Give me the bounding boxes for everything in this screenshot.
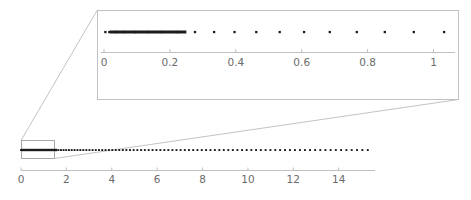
main-data-point bbox=[214, 149, 216, 151]
main-data-point bbox=[105, 149, 107, 151]
main-data-point bbox=[108, 149, 110, 151]
inset-data-points bbox=[104, 31, 445, 34]
inset-axis bbox=[101, 49, 455, 53]
main-data-point bbox=[274, 149, 276, 151]
main-data-point bbox=[57, 149, 59, 151]
main-tick-label: 4 bbox=[108, 173, 115, 185]
inset-dense-bar bbox=[110, 31, 186, 34]
main-data-point bbox=[330, 149, 332, 151]
main-data-point bbox=[356, 149, 358, 151]
main-data-point bbox=[324, 149, 326, 151]
main-data-point bbox=[223, 149, 225, 151]
main-data-point bbox=[140, 149, 142, 151]
main-data-points bbox=[20, 149, 369, 151]
inset-tick-label: 0.8 bbox=[359, 56, 376, 68]
inset-data-point bbox=[213, 31, 215, 33]
main-data-point bbox=[63, 149, 65, 151]
inset-data-point bbox=[413, 31, 415, 33]
main-panel: 02468101214 bbox=[18, 141, 375, 185]
inset-data-point bbox=[233, 31, 235, 33]
main-data-point bbox=[340, 149, 342, 151]
inset-tick-label: 0 bbox=[101, 56, 108, 68]
main-tick-label: 2 bbox=[63, 173, 70, 185]
main-data-point bbox=[241, 149, 243, 151]
main-data-point bbox=[136, 149, 138, 151]
main-data-point bbox=[269, 149, 271, 151]
main-data-point bbox=[101, 149, 103, 151]
main-data-point bbox=[250, 149, 252, 151]
main-data-point bbox=[197, 149, 199, 151]
main-data-point bbox=[144, 149, 146, 151]
main-data-point bbox=[284, 149, 286, 151]
main-data-point bbox=[351, 149, 353, 151]
main-data-point bbox=[74, 149, 76, 151]
main-data-point bbox=[133, 149, 135, 151]
main-tick-label: 6 bbox=[154, 173, 161, 185]
main-data-point bbox=[171, 149, 173, 151]
inset-data-point bbox=[279, 31, 281, 33]
main-tick-label: 0 bbox=[18, 173, 25, 185]
main-data-point bbox=[289, 149, 291, 151]
main-data-point bbox=[92, 149, 94, 151]
main-data-point bbox=[148, 149, 150, 151]
main-data-point bbox=[79, 149, 81, 151]
main-data-point bbox=[65, 149, 67, 151]
main-data-point bbox=[152, 149, 154, 151]
main-data-point bbox=[115, 149, 117, 151]
main-dense-bar bbox=[21, 149, 57, 151]
main-data-point bbox=[167, 149, 169, 151]
inset-tick-label: 1 bbox=[430, 56, 437, 68]
main-data-point bbox=[294, 149, 296, 151]
main-data-point bbox=[227, 149, 229, 151]
zoom-connectors bbox=[21, 11, 459, 159]
main-data-point bbox=[205, 149, 207, 151]
main-data-point bbox=[345, 149, 347, 151]
main-data-point bbox=[188, 149, 190, 151]
main-data-point bbox=[71, 149, 73, 151]
main-tick-label: 14 bbox=[332, 173, 346, 185]
main-data-point bbox=[98, 149, 100, 151]
main-data-point bbox=[299, 149, 301, 151]
inset-tick-label: 0.2 bbox=[162, 56, 179, 68]
main-data-point bbox=[111, 149, 113, 151]
main-data-point bbox=[265, 149, 267, 151]
main-tick-labels: 02468101214 bbox=[18, 173, 346, 185]
main-data-point bbox=[129, 149, 131, 151]
main-data-point bbox=[255, 149, 257, 151]
main-tick-label: 10 bbox=[241, 173, 254, 185]
inset-data-point bbox=[329, 31, 331, 33]
inset-data-point bbox=[104, 31, 106, 33]
main-data-point bbox=[125, 149, 127, 151]
inset-tick-label: 0.4 bbox=[227, 56, 244, 68]
main-data-point bbox=[361, 149, 363, 151]
main-data-point bbox=[218, 149, 220, 151]
main-data-point bbox=[314, 149, 316, 151]
inset-data-point bbox=[255, 31, 257, 33]
main-data-point bbox=[201, 149, 203, 151]
main-data-point bbox=[82, 149, 84, 151]
zoomed-scatter-figure: 00.20.40.60.81 02468101214 bbox=[0, 0, 471, 200]
main-data-point bbox=[118, 149, 120, 151]
inset-tick-labels: 00.20.40.60.81 bbox=[101, 56, 437, 68]
main-data-point bbox=[246, 149, 248, 151]
inset-panel: 00.20.40.60.81 bbox=[98, 11, 459, 100]
main-data-point bbox=[184, 149, 186, 151]
inset-data-point bbox=[194, 31, 196, 33]
connector-line-left bbox=[21, 11, 97, 141]
main-data-point bbox=[260, 149, 262, 151]
inset-data-point bbox=[303, 31, 305, 33]
main-data-point bbox=[192, 149, 194, 151]
main-data-point bbox=[232, 149, 234, 151]
main-data-point bbox=[88, 149, 90, 151]
main-data-point bbox=[236, 149, 238, 151]
main-data-point bbox=[122, 149, 124, 151]
main-data-point bbox=[159, 149, 161, 151]
inset-data-point bbox=[443, 31, 445, 33]
inset-data-point bbox=[356, 31, 358, 33]
main-tick-label: 12 bbox=[287, 173, 300, 185]
main-data-point bbox=[210, 149, 212, 151]
main-data-point bbox=[319, 149, 321, 151]
figure-canvas: 00.20.40.60.81 02468101214 bbox=[0, 0, 471, 200]
main-data-point bbox=[180, 149, 182, 151]
inset-frame bbox=[98, 11, 459, 100]
